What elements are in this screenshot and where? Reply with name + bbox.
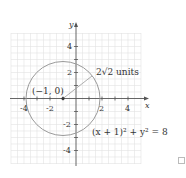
center-label: (−1, 0) — [32, 86, 64, 96]
circle-diagram: -4 -2 2 4 4 2 -2 -4 x y (−1, 0) 2√2 unit… — [0, 0, 186, 178]
y-axis-arrow-icon — [74, 22, 78, 27]
equation-label: (x + 1)² + y² = 8 — [92, 127, 168, 137]
radius-line — [63, 76, 92, 99]
y-tick-label: -4 — [63, 146, 71, 155]
y-tick-label: -2 — [63, 120, 71, 129]
x-tick-label: -4 — [20, 104, 28, 113]
y-tick-label: 4 — [67, 42, 72, 51]
y-tick-label: 2 — [67, 68, 72, 77]
x-tick-label: 2 — [99, 104, 104, 113]
x-axis-arrow-icon — [144, 97, 149, 101]
center-point — [61, 97, 64, 100]
y-axis-label: y — [68, 20, 74, 29]
checkbox[interactable] — [178, 157, 185, 164]
x-tick-label: 4 — [125, 104, 130, 113]
x-axis-label: x — [145, 101, 150, 110]
radius-label: 2√2 units — [96, 67, 139, 77]
x-tick-label: -2 — [46, 104, 54, 113]
